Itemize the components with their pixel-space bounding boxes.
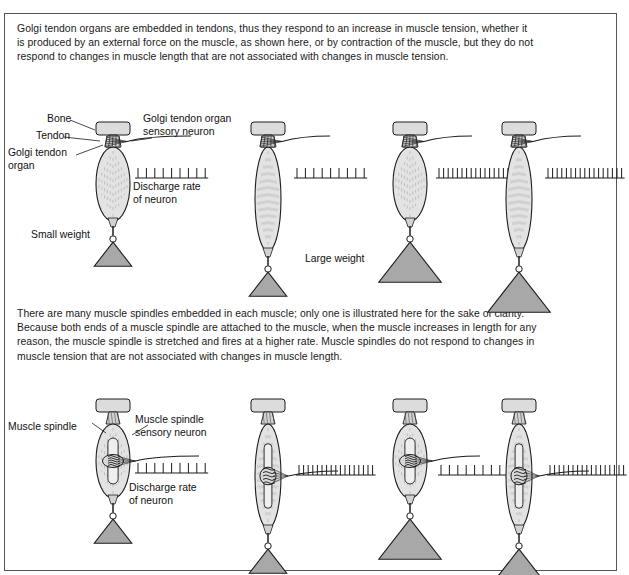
sensory-axon — [136, 456, 199, 461]
muscle-spindle-paragraph: There are many muscle spindles embedded … — [17, 307, 547, 364]
golgi-tendon-organ-paragraph: Golgi tendon organs are embedded in tend… — [17, 22, 537, 65]
hook-ring — [407, 236, 413, 242]
label-discharge-rate-spindle: Discharge rate of neuron — [129, 481, 197, 507]
label-large-weight: Large weight — [305, 252, 365, 265]
label-golgi-tendon-organ: Golgi tendon organ — [8, 146, 67, 172]
distal-tendon — [514, 525, 524, 534]
muscle-spindle-row — [0, 385, 629, 575]
label-small-weight: Small weight — [31, 228, 90, 241]
spindle-panel-3 — [379, 399, 511, 559]
sensory-axon — [282, 136, 330, 142]
gto-panel-3 — [379, 122, 516, 282]
label-gto-sensory-neuron: Golgi tendon organ sensory neuron — [143, 112, 231, 138]
leader-muscle-spindle — [92, 423, 106, 433]
bone — [96, 122, 130, 135]
bone — [393, 122, 427, 135]
weight — [249, 272, 286, 296]
distal-tendon — [108, 218, 118, 227]
discharge-rate-trace — [547, 465, 627, 475]
label-discharge-rate-gto: Discharge rate of neuron — [133, 180, 201, 206]
distal-tendon — [514, 248, 524, 257]
hook-ring — [516, 543, 522, 549]
leader-bone — [70, 120, 95, 130]
discharge-rate-trace — [545, 168, 625, 178]
discharge-rate-trace — [135, 168, 208, 178]
hook-ring — [110, 236, 116, 242]
discharge-rate-trace — [135, 463, 208, 473]
weight — [379, 519, 441, 559]
hook-ring — [110, 513, 116, 519]
gto-panel-4 — [488, 122, 625, 312]
discharge-rate-trace — [438, 465, 511, 475]
sensory-axon — [424, 136, 472, 142]
bone — [251, 122, 285, 135]
distal-tendon — [405, 495, 415, 504]
distal-tendon — [405, 218, 415, 227]
weight — [488, 549, 550, 575]
weight — [94, 242, 131, 266]
bone — [251, 399, 285, 412]
label-muscle-spindle: Muscle spindle — [8, 420, 77, 433]
gto-panel-2 — [249, 122, 367, 296]
sensory-axon — [433, 456, 480, 461]
bone — [502, 399, 536, 412]
bone — [96, 399, 130, 412]
weight — [249, 549, 286, 573]
distal-tendon — [263, 525, 273, 534]
hook-ring — [516, 266, 522, 272]
hook-ring — [265, 266, 271, 272]
label-bone: Bone — [47, 112, 71, 125]
spindle-panel-2 — [249, 399, 375, 573]
distal-tendon — [263, 248, 273, 257]
discharge-rate-trace — [294, 168, 367, 178]
hook-ring — [407, 513, 413, 519]
sensory-axon — [533, 136, 581, 142]
leader-golgi-tendon-organ — [76, 145, 103, 155]
hook-ring — [265, 543, 271, 549]
spindle-panel-4 — [488, 399, 627, 575]
label-tendon: Tendon — [36, 129, 70, 142]
distal-tendon — [108, 495, 118, 504]
weight — [94, 519, 131, 543]
bone — [502, 122, 536, 135]
label-spindle-sensory-neuron: Muscle spindle sensory neuron — [135, 413, 207, 439]
discharge-rate-trace — [296, 465, 376, 475]
weight — [379, 242, 441, 282]
discharge-rate-trace — [436, 168, 516, 178]
bone — [393, 399, 427, 412]
